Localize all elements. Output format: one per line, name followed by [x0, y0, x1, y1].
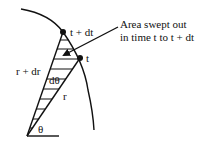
label-theta: θ [38, 123, 43, 135]
point-t [77, 55, 83, 61]
label-r-plus-dr: r + dr [16, 65, 41, 77]
label-t-plus-dt: t + dt [70, 26, 93, 38]
label-d-theta: dθ [49, 74, 60, 86]
swept-area-hatching [0, 40, 120, 128]
point-t-plus-dt [60, 29, 66, 35]
label-t: t [86, 52, 89, 64]
swept-area-diagram: t + dt t r + dr dθ r θ Area swept out in… [0, 0, 215, 151]
label-r: r [63, 90, 67, 102]
callout-line-1: Area swept out [120, 18, 187, 30]
callout-line-2: in time t to t + dt [120, 31, 194, 43]
